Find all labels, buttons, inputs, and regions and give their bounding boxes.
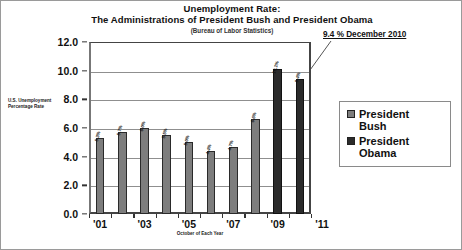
x-tick-label: '01 [93, 218, 107, 230]
bar-2010: 9.4% [296, 79, 305, 214]
chart-title-line2: The Administrations of President Bush an… [1, 14, 462, 25]
bar-value-label: 5.3% [94, 131, 102, 142]
legend-swatch-icon [347, 137, 355, 145]
bar-2006: 4.4% [207, 151, 216, 214]
bar-2005: 5.0% [185, 142, 194, 214]
x-tick-mark [178, 214, 179, 218]
x-tick-label: '05 [182, 218, 196, 230]
y-tick-mark [82, 70, 87, 71]
y-tick-label: 2.0 [63, 179, 78, 191]
y-tick-label: 12.0 [58, 36, 78, 48]
x-tick-mark [156, 214, 157, 218]
x-tick-mark [222, 214, 223, 218]
plot-area: 5.3%5.7%6.0%5.5%5.0%4.4%4.7%6.6%10.1%9.4… [89, 42, 311, 214]
bar-2009: 10.1% [273, 69, 282, 214]
x-tick-mark [311, 214, 312, 218]
annotation-label: 9.4 % December 2010 [323, 30, 406, 39]
legend-item: PresidentObama [347, 135, 445, 159]
bar-value-label: 10.1% [271, 61, 279, 75]
x-tick-mark [89, 214, 90, 218]
bar-value-label: 6.0% [138, 121, 146, 132]
y-tick-mark [82, 156, 87, 157]
bar-value-label: 6.6% [249, 112, 257, 123]
bar-value-label: 5.7% [116, 125, 124, 136]
y-tick-label: 4.0 [63, 151, 78, 163]
y-tick-mark [82, 41, 87, 42]
y-tick-label: 6.0 [63, 122, 78, 134]
chart-legend: PresidentBushPresidentObama [339, 101, 451, 167]
y-tick-mark [82, 185, 87, 186]
legend-item: PresidentBush [347, 108, 445, 132]
x-tick-mark [200, 214, 201, 218]
bar-value-label: 5.5% [161, 128, 169, 139]
x-tick-label: '11 [315, 218, 329, 230]
bar-value-label: 5.0% [183, 135, 191, 146]
y-tick-mark [82, 213, 87, 214]
x-tick-mark [289, 214, 290, 218]
bar-2002: 5.7% [118, 132, 127, 214]
bar-2004: 5.5% [162, 135, 171, 214]
bar-2008: 6.6% [251, 119, 260, 214]
y-axis-ticks: 0.02.04.06.08.010.012.0 [1, 42, 87, 214]
bar-2003: 6.0% [140, 128, 149, 214]
bar-value-label: 9.4% [294, 72, 302, 83]
x-tick-label: '03 [137, 218, 151, 230]
y-tick-label: 8.0 [63, 93, 78, 105]
bar-value-label: 4.7% [227, 139, 235, 150]
x-tick-mark [244, 214, 245, 218]
x-tick-label: '07 [226, 218, 240, 230]
bar-2001: 5.3% [96, 138, 105, 214]
x-axis-ticks: '01'03'05'07'09'11 [89, 214, 311, 228]
legend-swatch-icon [347, 110, 355, 118]
legend-label: PresidentObama [359, 135, 409, 159]
y-tick-mark [82, 99, 87, 100]
bars-container: 5.3%5.7%6.0%5.5%5.0%4.4%4.7%6.6%10.1%9.4… [89, 42, 311, 214]
chart-page: Unemployment Rate: The Administrations o… [0, 0, 462, 250]
x-tick-label: '09 [271, 218, 285, 230]
y-tick-label: 0.0 [63, 208, 78, 220]
chart-title-line1: Unemployment Rate: [1, 3, 462, 14]
x-tick-mark [133, 214, 134, 218]
y-tick-label: 10.0 [58, 65, 78, 77]
x-tick-mark [267, 214, 268, 218]
x-axis-title: October of Each Year [89, 231, 311, 236]
bar-2007: 4.7% [229, 147, 238, 214]
bar-value-label: 4.4% [205, 144, 213, 155]
y-tick-mark [82, 127, 87, 128]
x-tick-mark [111, 214, 112, 218]
legend-label: PresidentBush [359, 108, 409, 132]
